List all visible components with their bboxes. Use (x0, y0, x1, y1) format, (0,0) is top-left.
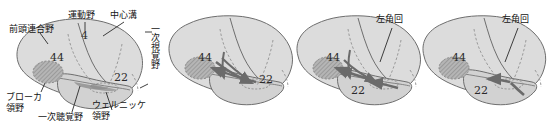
area-number-4: 4 (81, 29, 88, 42)
label-central-sulcus: 中心溝 (110, 10, 137, 21)
area-number-44: 44 (326, 51, 340, 64)
area-number-22: 22 (351, 84, 365, 97)
panel-reading-flow: 左角回 44 22 (288, 0, 423, 128)
brain-diagram-2 (160, 0, 295, 128)
label-motor: 運動野 (68, 10, 95, 21)
panel-labeled-brain-anatomy: 前頭連合野 運動野 中心溝 一次視覚野 ブローカ 領野 一次聴覚野 ウェルニッケ… (0, 0, 180, 128)
area-number-22: 22 (259, 73, 273, 86)
area-number-44: 44 (452, 51, 466, 64)
panel-angular-to-wernicke-flow: 左角回 44 22 (414, 0, 548, 128)
label-primary-visual: 一次視覚野 (150, 24, 160, 80)
label-wernicke: ウェルニッケ 領野 (92, 100, 146, 121)
label-frontal-association: 前頭連合野 (9, 24, 54, 35)
label-primary-auditory: 一次聴覚野 (38, 112, 83, 123)
area-number-22: 22 (114, 71, 128, 84)
label-angular-gyrus: 左角回 (376, 14, 403, 25)
broca-area-hatch (33, 61, 63, 83)
leader-primary-visual (140, 84, 148, 88)
panel-hearing-speech-flow: 44 22 (160, 0, 295, 128)
area-number-44: 44 (50, 51, 64, 64)
label-angular-gyrus: 左角回 (502, 14, 529, 25)
area-number-22: 22 (474, 84, 488, 97)
label-broca: ブローカ 領野 (6, 92, 42, 113)
area-number-44: 44 (198, 51, 212, 64)
brain-language-areas-figure: 前頭連合野 運動野 中心溝 一次視覚野 ブローカ 領野 一次聴覚野 ウェルニッケ… (0, 0, 548, 128)
